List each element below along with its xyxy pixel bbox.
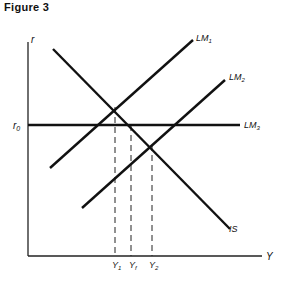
is-lm-diagram: r Y r0 LM1 LM2 LM3 IS Y1 Yf Y2 [0, 0, 292, 289]
y-axis-label: Y [266, 251, 274, 262]
lm3-label: LM3 [244, 120, 261, 131]
yf-tick-label: Yf [129, 260, 138, 271]
is-curve [53, 49, 230, 229]
lm1-curve [50, 40, 193, 168]
r0-label: r0 [13, 120, 20, 132]
r-axis-label: r [31, 34, 35, 45]
y2-tick-label: Y2 [149, 260, 159, 271]
is-label: IS [229, 224, 238, 234]
lm2-label: LM2 [229, 72, 246, 83]
y1-tick-label: Y1 [112, 260, 121, 271]
lm1-label: LM1 [196, 33, 212, 44]
